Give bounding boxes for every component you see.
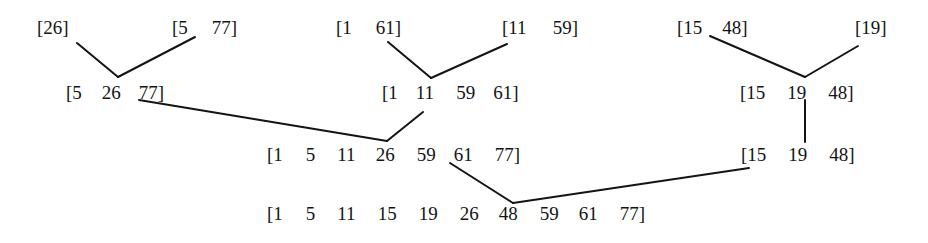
array-value: 59	[540, 203, 559, 225]
edge-n3b-to-n4a	[513, 168, 749, 203]
close-bracket: ]	[848, 144, 854, 166]
array-value: 5	[178, 17, 188, 39]
close-bracket: ]	[639, 203, 645, 225]
array-value: 19	[419, 203, 438, 225]
array-value: 59	[456, 82, 475, 104]
array-node-level-4: [151115192648596177]	[267, 203, 645, 225]
array-value: 61	[454, 144, 473, 166]
array-value: 77	[495, 144, 514, 166]
array-value: 1	[273, 203, 283, 225]
edge-n1b-to-n2a	[118, 37, 195, 77]
close-bracket: ]	[158, 82, 164, 104]
close-bracket: ]	[512, 82, 518, 104]
edge-n1f-to-n2c	[805, 46, 858, 77]
array-node-level-1: [19]	[855, 17, 887, 39]
close-bracket: ]	[231, 17, 237, 39]
array-value: 61	[376, 17, 395, 39]
array-value: 26	[102, 82, 121, 104]
array-value: 59	[553, 17, 572, 39]
edge-n1c-to-n2b	[388, 42, 431, 78]
close-bracket: ]	[880, 17, 886, 39]
array-value: 1	[342, 17, 352, 39]
array-node-level-2: [151948]	[740, 82, 854, 104]
close-bracket: ]	[62, 17, 68, 39]
array-value: 48	[499, 203, 518, 225]
array-value: 26	[376, 144, 395, 166]
array-node-level-1: [161]	[336, 17, 401, 39]
array-node-level-3: [151948]	[741, 144, 855, 166]
array-value: 61	[579, 203, 598, 225]
array-value: 48	[829, 144, 848, 166]
array-value: 61	[493, 82, 512, 104]
close-bracket: ]	[514, 144, 520, 166]
array-node-level-1: [26]	[37, 17, 69, 39]
array-value: 26	[460, 203, 479, 225]
edge-n1d-to-n2b	[431, 44, 507, 78]
array-value: 11	[337, 144, 355, 166]
array-value: 48	[828, 82, 847, 104]
array-node-level-1: [577]	[172, 17, 237, 39]
close-bracket: ]	[847, 82, 853, 104]
array-value: 15	[747, 144, 766, 166]
array-value: 11	[508, 17, 526, 39]
array-value: 5	[306, 203, 316, 225]
array-value: 19	[788, 144, 807, 166]
edge-n2a-to-n3a	[139, 100, 387, 141]
close-bracket: ]	[395, 17, 401, 39]
array-node-level-2: [52677]	[66, 82, 164, 104]
array-node-level-1: [1548]	[677, 17, 748, 39]
array-value: 77	[212, 17, 231, 39]
array-value: 5	[306, 144, 316, 166]
edge-n2b-to-n3a	[387, 112, 423, 141]
edge-n1e-to-n2c	[710, 36, 805, 77]
array-value: 11	[416, 82, 434, 104]
array-value: 19	[861, 17, 880, 39]
array-node-level-2: [1115961]	[382, 82, 518, 104]
array-value: 77	[139, 82, 158, 104]
array-value: 77	[620, 203, 639, 225]
array-node-level-1: [1159]	[502, 17, 578, 39]
close-bracket: ]	[572, 17, 578, 39]
array-value: 59	[417, 144, 436, 166]
merge-sort-diagram: [26][577][161][1159][1548][19][52677][11…	[0, 0, 928, 243]
array-value: 1	[273, 144, 283, 166]
array-value: 11	[337, 203, 355, 225]
array-value: 15	[683, 17, 702, 39]
array-value: 48	[722, 17, 741, 39]
edge-n3a-to-n4a	[450, 163, 513, 203]
array-value: 1	[388, 82, 398, 104]
array-value: 15	[378, 203, 397, 225]
edge-n1a-to-n2a	[77, 43, 118, 77]
close-bracket: ]	[741, 17, 747, 39]
array-value: 26	[43, 17, 62, 39]
array-value: 5	[72, 82, 82, 104]
array-node-level-3: [151126596177]	[267, 144, 520, 166]
array-value: 19	[787, 82, 806, 104]
array-value: 15	[746, 82, 765, 104]
